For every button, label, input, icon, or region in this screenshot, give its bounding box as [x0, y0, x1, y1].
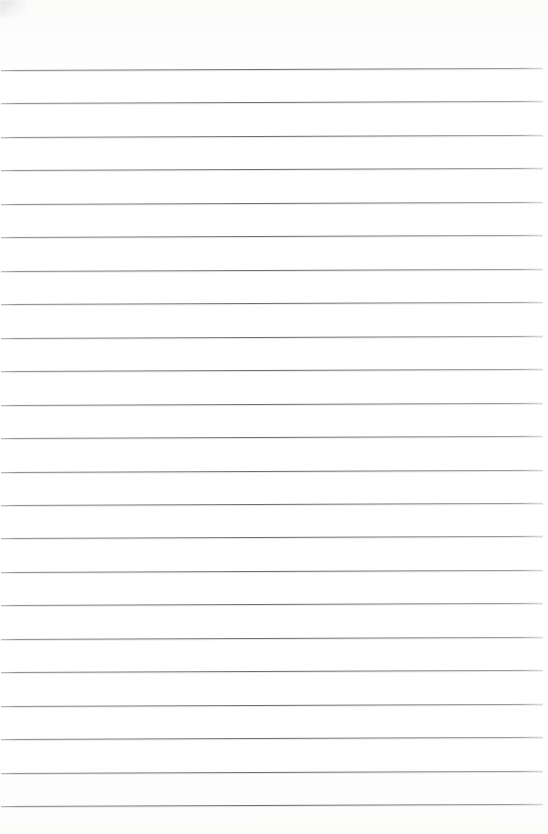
- ruled-line: [1, 336, 543, 339]
- ruled-line: [1, 101, 543, 104]
- ruled-line: [1, 804, 543, 807]
- ruled-line: [1, 302, 543, 305]
- ruled-line: [1, 369, 543, 372]
- ruled-line: [1, 570, 543, 573]
- ruled-line: [1, 470, 543, 473]
- scanned-page: [0, 0, 548, 834]
- ruled-lines-group: [0, 0, 548, 834]
- ruled-line: [1, 269, 543, 272]
- ruled-line: [1, 670, 543, 673]
- ruled-line: [1, 536, 543, 539]
- ruled-line: [1, 704, 543, 707]
- ruled-line: [1, 637, 543, 640]
- ruled-line: [1, 168, 543, 171]
- ruled-line: [1, 771, 543, 774]
- ruled-line: [1, 68, 543, 71]
- ruled-line: [1, 135, 543, 138]
- ruled-line: [1, 403, 543, 406]
- ruled-line: [1, 603, 543, 606]
- ruled-line: [1, 436, 543, 439]
- ruled-line: [1, 202, 543, 205]
- ruled-line: [1, 235, 543, 238]
- ruled-line: [1, 503, 543, 506]
- ruled-line: [1, 737, 543, 740]
